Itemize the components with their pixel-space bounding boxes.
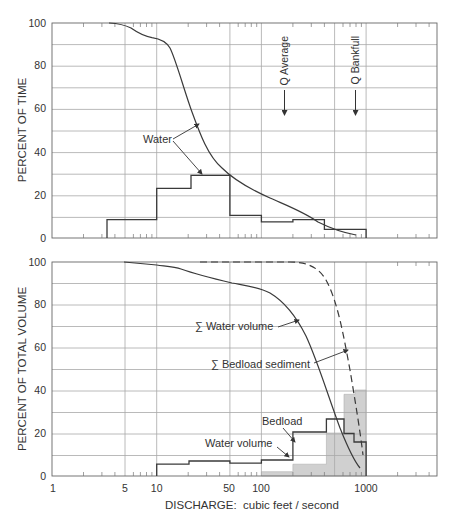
top-water-duration-curve bbox=[109, 23, 356, 235]
sum-water-volume-label: ∑ Water volume bbox=[195, 320, 273, 333]
top-minor-ticks bbox=[84, 23, 430, 238]
xtick-50: 50 bbox=[223, 482, 235, 494]
bottom-ytick-20: 20 bbox=[34, 427, 46, 439]
top-ytick-0: 0 bbox=[40, 232, 46, 244]
top-water-histogram bbox=[107, 175, 366, 238]
bottom-chart: 0 20 40 60 80 100 PERCENT OF TOTAL VOLUM… bbox=[16, 256, 437, 511]
top-grid bbox=[52, 23, 437, 238]
discharge-figure: 0 20 40 60 80 100 PERCENT OF TIME Water … bbox=[0, 0, 452, 523]
q-bankfull-label: Q Bankfull bbox=[349, 36, 361, 84]
water-label: Water bbox=[143, 133, 172, 145]
top-ytick-100: 100 bbox=[28, 17, 46, 29]
top-ytick-40: 40 bbox=[34, 146, 46, 158]
q-average-label: Q Average bbox=[278, 36, 290, 86]
bottom-ytick-40: 40 bbox=[34, 384, 46, 396]
sum-water-volume-arrow bbox=[278, 320, 299, 327]
xtick-1: 1 bbox=[50, 482, 56, 494]
xtick-10: 10 bbox=[151, 482, 163, 494]
bottom-ytick-0: 0 bbox=[40, 470, 46, 482]
x-ticks: 1 5 10 50 100 1000 bbox=[50, 482, 378, 494]
sum-bedload-sediment-arrow bbox=[314, 350, 348, 363]
top-ytick-20: 20 bbox=[34, 189, 46, 201]
water-arrow-histogram bbox=[173, 141, 202, 174]
q-bankfull-marker: Q Bankfull bbox=[349, 36, 361, 115]
sum-bedload-sediment-label: ∑ Bedload sediment bbox=[211, 358, 310, 371]
bottom-ytick-80: 80 bbox=[34, 298, 46, 310]
x-axis-label: DISCHARGE: cubic feet / second bbox=[165, 499, 339, 511]
water-arrow-curve bbox=[173, 124, 199, 139]
water-volume-label: Water volume bbox=[205, 437, 272, 449]
xtick-100: 100 bbox=[252, 482, 270, 494]
top-plot-frame bbox=[52, 23, 437, 238]
top-ytick-80: 80 bbox=[34, 59, 46, 71]
top-ytick-60: 60 bbox=[34, 102, 46, 114]
bedload-label: Bedload bbox=[262, 415, 302, 427]
bottom-y-axis-label: PERCENT OF TOTAL VOLUME bbox=[16, 287, 28, 452]
q-average-marker: Q Average bbox=[278, 36, 290, 115]
xtick-5: 5 bbox=[122, 482, 128, 494]
xtick-1000: 1000 bbox=[354, 482, 378, 494]
bottom-ytick-100: 100 bbox=[28, 256, 46, 268]
bottom-y-ticks: 0 20 40 60 80 100 bbox=[28, 256, 46, 482]
top-y-ticks: 0 20 40 60 80 100 bbox=[28, 17, 46, 244]
top-y-axis-label: PERCENT OF TIME bbox=[16, 77, 28, 182]
top-chart: 0 20 40 60 80 100 PERCENT OF TIME Water … bbox=[16, 17, 437, 244]
bottom-ytick-60: 60 bbox=[34, 341, 46, 353]
